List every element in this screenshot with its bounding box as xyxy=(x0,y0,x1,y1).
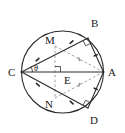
angle-arc-theta xyxy=(31,66,33,72)
point-label-A: A xyxy=(108,66,116,78)
point-label-N: N xyxy=(45,98,53,110)
geometry-figure: A B C D E M N θ xyxy=(0,0,125,133)
point-label-D: D xyxy=(90,114,98,126)
angle-label-theta: θ xyxy=(34,64,38,73)
point-label-E: E xyxy=(64,74,71,86)
right-angle-at-E xyxy=(55,67,61,73)
tick-NA xyxy=(79,83,80,86)
tick-CM xyxy=(36,58,39,61)
point-label-M: M xyxy=(45,34,55,46)
tick-ND xyxy=(70,101,73,104)
geometry-canvas: A B C D E M N θ xyxy=(0,0,125,133)
tick-MA xyxy=(79,58,80,61)
solid-segments-group xyxy=(22,38,104,108)
tick-CN xyxy=(36,83,39,86)
vertex-dot-A xyxy=(102,71,104,73)
point-label-B: B xyxy=(91,17,98,29)
tick-MB xyxy=(70,41,73,44)
vertex-dot-C xyxy=(20,71,22,73)
point-label-C: C xyxy=(8,66,15,78)
